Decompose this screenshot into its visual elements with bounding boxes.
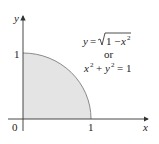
svg-text:2: 2 bbox=[111, 61, 115, 69]
svg-text:= 1: = 1 bbox=[117, 62, 131, 74]
svg-text:x: x bbox=[120, 35, 126, 47]
svg-text:2: 2 bbox=[127, 34, 131, 42]
quarter-circle-diagram: y x 0 1 1 y = 1 − x 2 or x 2 + y 2 = 1 bbox=[0, 0, 159, 144]
svg-text:y: y bbox=[104, 62, 110, 74]
equation-line-3: x 2 + y 2 = 1 bbox=[83, 61, 131, 74]
svg-text:=: = bbox=[90, 35, 96, 47]
svg-text:2: 2 bbox=[90, 61, 94, 69]
x-tick-label: 1 bbox=[88, 121, 94, 133]
equation-line-1: y = 1 − x 2 bbox=[82, 33, 131, 47]
x-axis-label: x bbox=[142, 121, 148, 133]
svg-text:x: x bbox=[83, 62, 89, 74]
y-tick-label: 1 bbox=[14, 48, 20, 60]
y-axis-label: y bbox=[13, 12, 19, 24]
svg-text:+: + bbox=[96, 62, 102, 74]
shaded-region bbox=[23, 53, 91, 119]
origin-label: 0 bbox=[12, 121, 18, 133]
svg-text:1 −: 1 − bbox=[106, 35, 120, 47]
equation-connector: or bbox=[104, 48, 114, 60]
svg-text:y: y bbox=[82, 35, 88, 47]
